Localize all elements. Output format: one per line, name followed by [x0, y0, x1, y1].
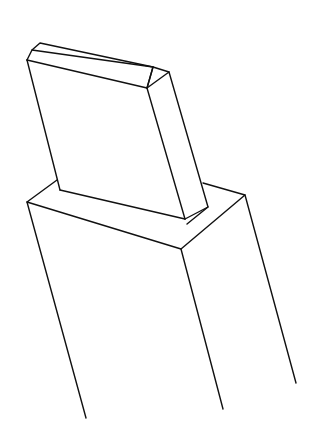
top-slab [27, 43, 208, 219]
line-drawing [0, 0, 323, 439]
post [27, 180, 296, 418]
